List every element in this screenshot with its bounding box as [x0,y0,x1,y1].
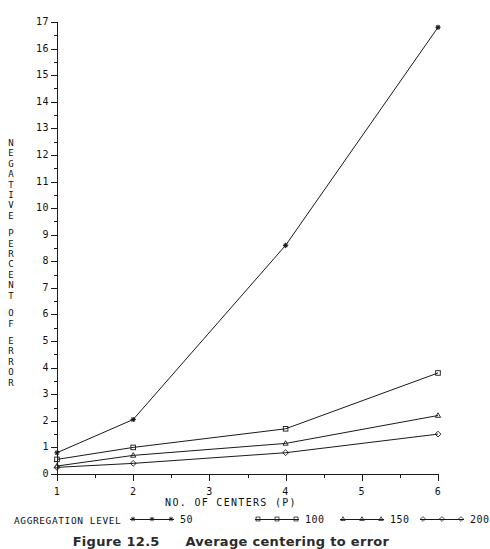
x-tick-minor [248,474,249,478]
y-axis-title-char: E [4,239,18,249]
y-tick-label: 17 [5,17,49,27]
data-point-diamond [421,517,426,522]
y-tick-label: 2 [5,416,49,426]
y-axis-title-char [4,221,18,228]
y-axis-title-char: I [4,190,18,200]
y-tick-label-wrap: 3 [0,389,49,399]
y-tick-label: 4 [5,363,49,373]
data-point-triangle [379,517,383,521]
x-tick-minor [400,474,401,478]
legend-marker-diamond-icon [420,513,466,525]
y-tick-label: 12 [5,150,49,160]
y-tick-label: 15 [5,70,49,80]
y-tick-label: 6 [5,309,49,319]
x-tick-label: 1 [42,486,72,497]
y-tick-label: 7 [5,283,49,293]
series-150 [54,413,440,468]
data-point-triangle [435,413,440,418]
y-tick-label: 8 [5,256,49,266]
y-tick-label-wrap: 9 [0,230,49,240]
x-tick-mark [209,474,210,481]
chart-legend: AGGREGATION LEVEL 50100150200 [0,512,462,530]
y-axis-title-char: G [4,159,18,169]
y-tick-label: 14 [5,97,49,107]
x-tick-minor [95,474,96,478]
data-point-star [150,517,154,521]
y-axis-title-char [4,329,18,336]
data-point-star [131,517,135,521]
y-tick-label-wrap: 13 [0,123,49,133]
y-tick-label: 13 [5,123,49,133]
data-point-triangle [341,517,345,521]
x-axis-title: NO. OF CENTERS (P) [0,497,462,508]
legend-label-150: 150 [390,514,410,525]
data-point-square [294,517,298,521]
x-tick-mark [57,474,58,481]
data-point-diamond [459,517,464,522]
figure-caption: Figure 12.5 Average centering to error [0,534,462,549]
y-tick-label-wrap: 1 [0,442,49,452]
data-point-diamond [440,517,445,522]
y-tick-label: 9 [5,230,49,240]
y-tick-label-wrap: 11 [0,177,49,187]
y-tick-label: 11 [5,177,49,187]
data-point-square [275,517,279,521]
x-tick-label: 5 [347,486,377,497]
x-tick-minor [324,474,325,478]
y-tick-label-wrap: 12 [0,150,49,160]
y-tick-label: 1 [5,442,49,452]
y-axis-title-char: F [4,319,18,329]
x-tick-label: 4 [271,486,301,497]
x-tick-label: 3 [194,486,224,497]
legend-marker-star-icon [130,513,176,525]
y-tick-label-wrap: 17 [0,17,49,27]
y-tick-label: 0 [5,469,49,479]
y-axis-title-char: E [4,270,18,280]
legend-label-100: 100 [305,514,325,525]
y-axis-title-char: N [4,138,18,148]
x-tick-mark [133,474,134,481]
x-tick-label: 6 [423,486,453,497]
plot-series-layer [57,22,438,474]
data-point-square [256,517,260,521]
legend-marker-square-icon [255,513,301,525]
y-tick-label-wrap: 14 [0,97,49,107]
data-point-star [435,25,440,30]
y-tick-label: 3 [5,389,49,399]
x-tick-minor [171,474,172,478]
y-axis-title-char: R [4,378,18,388]
legend-marker-triangle-icon [340,513,386,525]
series-100 [55,371,441,462]
data-point-star [54,450,59,455]
data-point-star [169,517,173,521]
y-tick-label: 16 [5,44,49,54]
y-tick-label-wrap: 16 [0,44,49,54]
y-axis-title-char [4,301,18,308]
y-tick-label: 10 [5,203,49,213]
y-tick-label-wrap: 0 [0,469,49,479]
x-tick-label: 2 [118,486,148,497]
y-tick-label-wrap: 5 [0,336,49,346]
caption-figure-text: Average centering to error [185,534,389,549]
y-axis-title-char: R [4,346,18,356]
y-tick-label-wrap: 7 [0,283,49,293]
series-line-50 [57,27,438,452]
x-tick-mark [438,474,439,481]
legend-title: AGGREGATION LEVEL [14,515,121,526]
y-tick-label-wrap: 6 [0,309,49,319]
y-tick-label: 5 [5,336,49,346]
legend-label-200: 200 [470,514,490,525]
series-50 [54,25,440,456]
caption-figure-number: Figure 12.5 [73,534,160,549]
x-tick-mark [362,474,363,481]
legend-label-50: 50 [180,514,193,525]
data-point-triangle [360,517,364,521]
x-tick-mark [286,474,287,481]
y-tick-label-wrap: 15 [0,70,49,80]
y-tick-label-wrap: 4 [0,363,49,373]
y-tick-label-wrap: 2 [0,416,49,426]
y-tick-label-wrap: 10 [0,203,49,213]
y-tick-label-wrap: 8 [0,256,49,266]
